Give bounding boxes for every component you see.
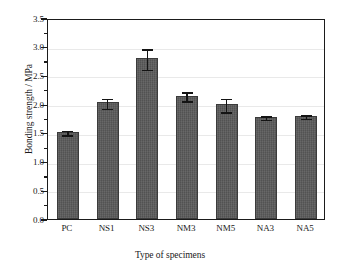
x-axis-tick-label-na5: NA5 [282,224,328,233]
error-bar-cap-top [102,99,113,100]
bar-na5 [295,116,317,219]
error-bar-na3 [261,116,272,121]
error-bar-cap-top [62,131,73,132]
error-bar-cap-top [182,92,193,93]
x-axis-title: Type of specimens [0,250,340,260]
gridline [48,49,324,50]
error-bar-cap-bottom [142,70,153,71]
gridline [48,77,324,78]
bar-na3 [255,117,277,219]
y-axis-tick-label: 1.5 [4,129,44,138]
error-bar-cap-bottom [221,112,232,113]
error-bar-nm3 [182,92,193,102]
y-axis-tick-label: 0.0 [4,216,44,225]
y-axis-tick-label: 1.0 [4,158,44,167]
plot-area [47,19,325,220]
error-bar-cap-top [261,116,272,117]
error-bar-cap-bottom [102,109,113,110]
error-bar-cap-top [221,99,232,100]
bar-pc [57,132,79,219]
error-bar-cap-top [301,115,312,116]
bar-chart-figure: Bonding strength / MPa 0.00.51.01.52.02.… [0,0,340,275]
error-bar-cap-bottom [182,101,193,102]
error-bar-pc [62,131,73,137]
bar-nm5 [216,104,238,219]
y-axis-tick-label: 2.0 [4,101,44,110]
bar-nm3 [176,96,198,219]
y-axis-tick-label: 0.5 [4,187,44,196]
error-bar-cap-bottom [301,119,312,120]
error-bar-na5 [301,115,312,120]
error-bar-stem [147,49,148,71]
error-bar-ns3 [142,49,153,71]
error-bar-cap-bottom [62,135,73,136]
y-axis-tick-label: 3.5 [4,15,44,24]
error-bar-nm5 [221,99,232,114]
error-bar-ns1 [102,99,113,110]
bar-ns1 [97,102,119,219]
error-bar-cap-top [142,49,153,50]
error-bar-cap-bottom [261,120,272,121]
bar-ns3 [136,58,158,219]
y-axis-tick-label: 2.5 [4,72,44,81]
y-axis-tick-label: 3.0 [4,43,44,52]
